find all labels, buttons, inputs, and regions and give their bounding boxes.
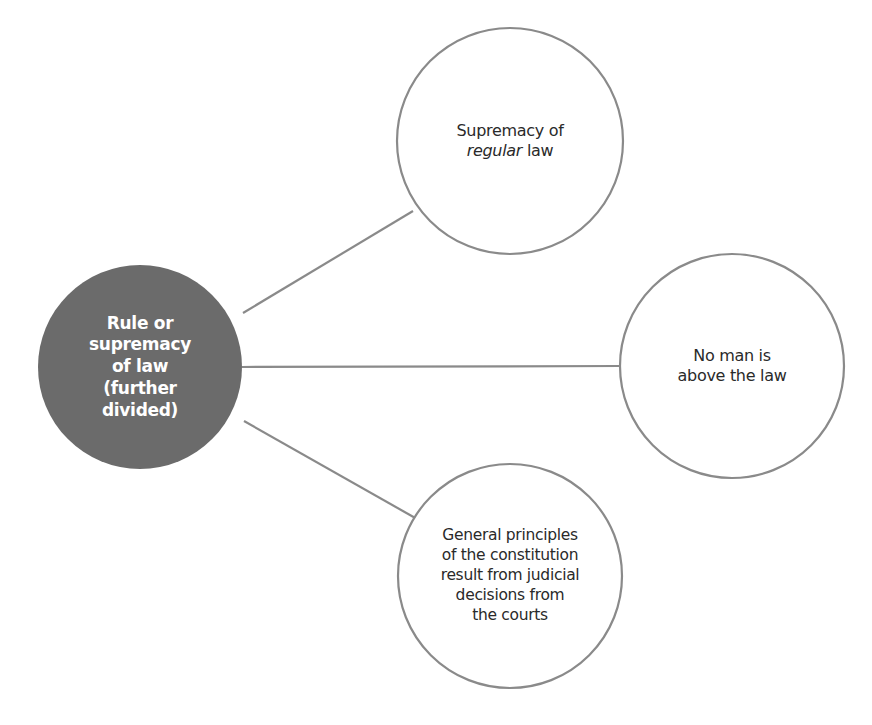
leaf-node-label-no-man: No man is above the law (632, 266, 832, 466)
hub-label-line: (further (103, 378, 176, 400)
leaf-label-line: Supremacy of (456, 121, 563, 141)
leaf-label-line: regular law (467, 141, 554, 161)
italic-emphasis: regular (467, 141, 522, 160)
hub-node-label: Rule or supremacy of law (further divide… (40, 267, 240, 467)
leaf-label-line: No man is (693, 346, 771, 366)
hub-label-line: supremacy (89, 334, 191, 356)
leaf-label-line: General principles (442, 526, 578, 546)
leaf-label-line: result from judicial (441, 566, 580, 586)
hub-label-line: of law (112, 356, 168, 378)
hub-label-line: divided) (102, 400, 178, 422)
leaf-label-line: the courts (472, 606, 548, 626)
leaf-label-line: above the law (678, 366, 787, 386)
leaf-node-label-principles: General principles of the constitution r… (410, 476, 610, 676)
hub-label-line: Rule or (107, 313, 173, 335)
edge-to-no-man-above-law (242, 366, 620, 367)
leaf-label-line: decisions from (456, 586, 565, 606)
leaf-label-line: of the constitution (442, 546, 578, 566)
leaf-node-label-supremacy: Supremacy of regular law (410, 41, 610, 241)
edge-to-general-principles (244, 421, 417, 519)
leaf-label-rest: law (522, 141, 553, 160)
edge-to-supremacy-regular-law (243, 211, 413, 313)
